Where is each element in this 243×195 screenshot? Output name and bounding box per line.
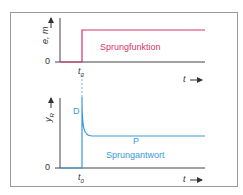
bottom-t-axis-label: t bbox=[183, 174, 186, 184]
d-label: D bbox=[73, 106, 80, 116]
sprungantwort-label: Sprungantwort bbox=[106, 150, 165, 160]
diagram-svg bbox=[0, 0, 243, 195]
p-label: P bbox=[133, 136, 139, 146]
top-zero-label: 0 bbox=[45, 56, 50, 66]
top-t0-label: t0 bbox=[78, 66, 84, 78]
sprungfunktion-label: Sprungfunktion bbox=[100, 42, 161, 52]
bottom-t0-label: t0 bbox=[78, 172, 84, 184]
bottom-ylabel: yR bbox=[43, 113, 55, 122]
bottom-zero-label: 0 bbox=[45, 162, 50, 172]
top-ylabel: e, m bbox=[40, 26, 50, 44]
top-t-axis-label: t bbox=[183, 74, 186, 84]
